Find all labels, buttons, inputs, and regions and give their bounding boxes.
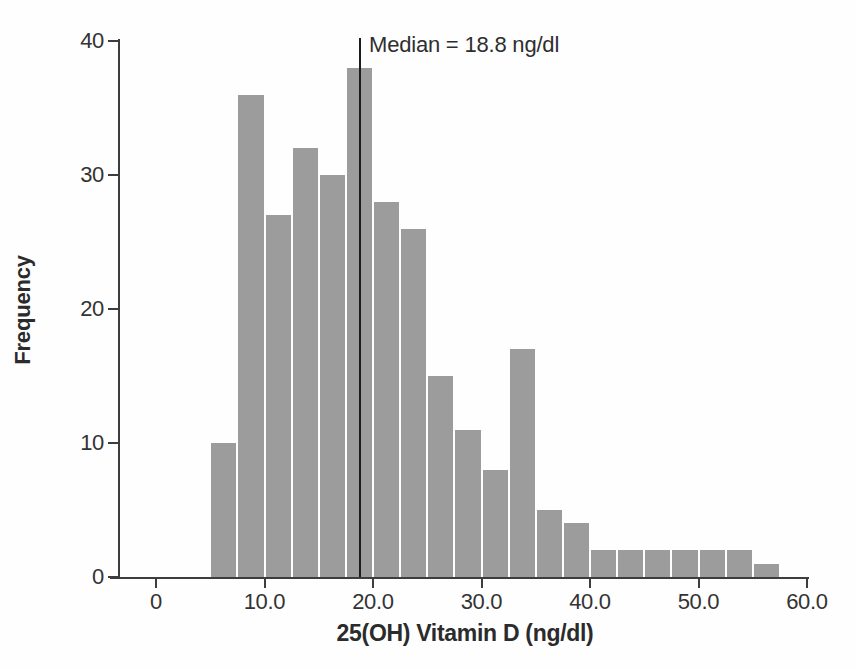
y-tick-mark <box>108 442 118 444</box>
y-axis-line <box>118 39 120 579</box>
histogram-figure: Frequency 25(OH) Vitamin D (ng/dl) 01020… <box>0 0 856 669</box>
y-tick-mark <box>108 576 118 578</box>
x-tick-mark <box>589 579 591 588</box>
y-tick-label: 30 <box>58 164 104 186</box>
y-tick-mark <box>108 308 118 310</box>
x-axis-title: 25(OH) Vitamin D (ng/dl) <box>265 620 665 646</box>
x-tick-label: 10.0 <box>223 590 307 614</box>
histogram-bar <box>293 148 318 577</box>
histogram-bar <box>672 550 698 577</box>
histogram-bar <box>483 470 508 577</box>
histogram-bar <box>211 443 236 577</box>
median-annotation: Median = 18.8 ng/dl <box>369 33 559 57</box>
histogram-bar <box>700 550 725 577</box>
histogram-bar <box>537 510 562 577</box>
x-tick-mark <box>481 579 483 588</box>
x-axis-line <box>110 577 809 579</box>
x-tick-label: 30.0 <box>440 590 524 614</box>
x-tick-mark <box>806 579 808 588</box>
y-tick-label: 10 <box>58 432 104 454</box>
histogram-bar <box>238 95 264 577</box>
x-tick-mark <box>264 579 266 588</box>
x-tick-mark <box>155 579 157 588</box>
histogram-bar <box>618 550 643 577</box>
histogram-bar <box>374 202 399 577</box>
x-tick-mark <box>698 579 700 588</box>
histogram-bar <box>754 564 779 577</box>
histogram-bar <box>645 550 670 577</box>
x-tick-label: 40.0 <box>548 590 632 614</box>
y-tick-label: 0 <box>58 566 104 588</box>
histogram-bar <box>727 550 752 577</box>
histogram-bar <box>455 430 481 577</box>
y-tick-mark <box>108 40 118 42</box>
x-tick-mark <box>372 579 374 588</box>
x-tick-label: 20.0 <box>331 590 415 614</box>
y-tick-mark <box>108 174 118 176</box>
histogram-bar <box>266 215 291 577</box>
median-reference-line <box>359 38 361 577</box>
y-axis-title: Frequency <box>10 200 36 420</box>
histogram-bar <box>510 349 535 577</box>
histogram-bar <box>401 229 426 577</box>
histogram-bar <box>320 175 345 577</box>
histogram-bar <box>428 376 453 577</box>
histogram-bar <box>591 550 616 577</box>
x-tick-label: 60.0 <box>765 590 849 614</box>
x-tick-label: 0 <box>114 590 198 614</box>
y-tick-label: 20 <box>58 298 104 320</box>
histogram-bar <box>564 523 589 577</box>
y-tick-label: 40 <box>58 30 104 52</box>
x-tick-label: 50.0 <box>657 590 741 614</box>
